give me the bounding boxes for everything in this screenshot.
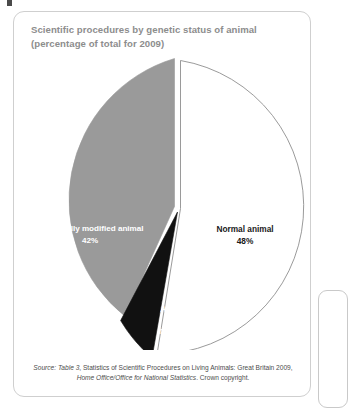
pie-chart: Genetically modified animal 42% Normal a… <box>0 40 338 350</box>
pie-chart-svg <box>0 40 338 350</box>
page-corner-mark <box>7 0 12 6</box>
source-table-ref: Table 3 <box>58 364 79 371</box>
source-copyright: . Crown copyright. <box>196 374 249 381</box>
pie-slice-normal-animal <box>157 61 304 351</box>
source-label: Source: <box>33 364 58 371</box>
source-agency: Home Office/Office for National Statisti… <box>77 374 196 381</box>
source-publication: , Statistics of Scientific Procedures on… <box>79 364 292 371</box>
source-note: Source: Table 3, Statistics of Scientifi… <box>26 363 300 382</box>
chart-title-line-1: Scientific procedures by genetic status … <box>31 24 257 35</box>
